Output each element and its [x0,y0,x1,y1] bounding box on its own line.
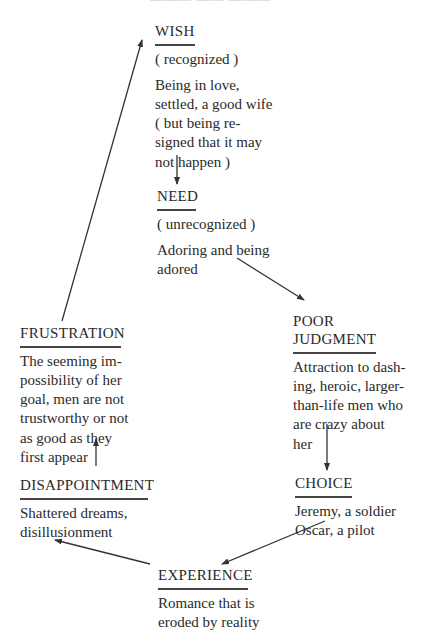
node-experience: EXPERIENCE Romance that is eroded by rea… [158,566,318,632]
node-body: The seeming im- possibility of her goal,… [20,352,160,468]
arrow-experience-to-disappointment [55,540,150,564]
node-wish: WISH ( recognized ) Being in love, settl… [155,22,355,172]
title-rule [295,496,352,498]
title-rule [20,498,148,500]
title-rule [293,352,376,354]
node-disappointment: DISAPPOINTMENT Shattered dreams, disillu… [20,476,180,542]
node-title: EXPERIENCE [158,566,318,584]
title-rule [20,346,121,348]
node-title: POOR JUDGMENT [293,312,422,348]
node-body: Attraction to dash- ing, heroic, larger-… [293,358,422,454]
node-body: Jeremy, a soldier Oscar, a pilot [295,502,422,541]
node-title: FRUSTRATION [20,324,160,342]
node-title: WISH [155,22,355,40]
node-body: Romance that is eroded by reality [158,594,318,633]
node-body: Adoring and being adored [157,241,357,280]
node-subtitle: ( recognized ) [155,50,355,69]
node-choice: CHOICE Jeremy, a soldier Oscar, a pilot [295,474,422,540]
node-title: NEED [157,187,357,205]
node-need: NEED ( unrecognized ) Adoring and being … [157,187,357,279]
node-subtitle: ( unrecognized ) [157,215,357,234]
node-title: CHOICE [295,474,422,492]
node-frustration: FRUSTRATION The seeming im- possibility … [20,324,160,467]
node-body: Being in love, settled, a good wife ( bu… [155,76,355,172]
title-rule [155,44,195,46]
node-poor-judgment: POOR JUDGMENT Attraction to dash- ing, h… [293,312,422,454]
node-body: Shattered dreams, disillusionment [20,504,180,543]
title-rule [158,588,248,590]
node-title: DISAPPOINTMENT [20,476,180,494]
arrow-frustration-to-wish [62,40,142,321]
title-rule [157,209,196,211]
